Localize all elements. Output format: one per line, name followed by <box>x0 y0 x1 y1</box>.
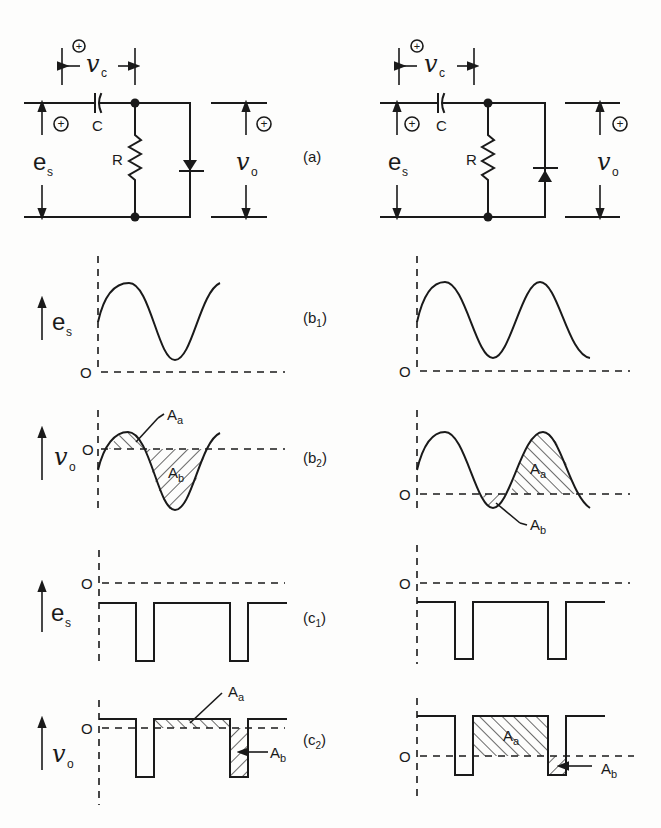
waveform-c2-left: v o O Aa Ab <box>42 683 286 805</box>
ab-leader-tail <box>520 523 527 525</box>
aa-label: Aa <box>167 406 184 426</box>
diode-left-icon <box>183 160 197 171</box>
panel-label-b2: (b2) <box>303 449 327 469</box>
ab-label: Ab <box>601 760 617 780</box>
circuit-right: + v c C R + e s + v o <box>381 40 627 222</box>
waveform-b1-right: O <box>399 256 630 380</box>
zero-label: O <box>80 364 92 381</box>
es-label-sub: s <box>66 325 72 339</box>
resistor-label: R <box>112 151 123 168</box>
resistor <box>129 103 141 217</box>
waveform-c1-left: e s O <box>42 550 286 666</box>
vo-plus-sign: + <box>260 117 267 131</box>
resistor-label: R <box>466 151 477 168</box>
circuit-left: + v c C R + e s + v o <box>25 40 271 222</box>
es-plus-sign: + <box>57 117 64 131</box>
capacitor-label: C <box>436 117 447 134</box>
zero-label: O <box>81 575 93 592</box>
ab-label: Ab <box>530 516 546 536</box>
es-label: e <box>33 148 46 175</box>
panel-label-c1: (c1) <box>303 609 326 629</box>
waveform-b1-left: e s O <box>42 256 285 381</box>
es-label-sub: s <box>47 165 53 179</box>
vo-label: v <box>236 148 250 176</box>
vo-label-sub: o <box>251 165 258 179</box>
vc-label: v <box>424 50 438 78</box>
es-label: e <box>388 148 401 175</box>
panel-label-a: (a) <box>303 148 321 165</box>
resistor <box>482 103 494 217</box>
vc-label: v <box>86 50 100 78</box>
waveform-c1-right: O <box>399 545 630 664</box>
es-label: e <box>52 308 65 335</box>
waveform-b2-right: O Aa Ab <box>399 410 630 536</box>
vo-label: v <box>597 148 611 176</box>
aa-leader-tail <box>158 414 164 418</box>
es-label-sub: s <box>65 616 71 630</box>
aa-label: Aa <box>228 683 245 703</box>
zero-label: O <box>81 720 93 737</box>
waveform-b2-left: v o O Aa Ab <box>42 406 285 510</box>
es-sine <box>98 283 220 360</box>
vo-plus-sign: + <box>616 117 623 131</box>
clamper-figure: + v c C R + e s + v o <box>0 0 661 828</box>
vc-plus-sign: + <box>76 40 82 52</box>
es-pulse-train <box>418 602 604 659</box>
zero-label: O <box>399 486 411 503</box>
panel-label-c2: (c2) <box>303 731 326 751</box>
es-sine <box>417 282 590 358</box>
zero-label: O <box>399 748 411 765</box>
ab-leader-line <box>496 503 520 523</box>
vc-label-sub: c <box>439 66 445 80</box>
figure-canvas: + v c C R + e s + v o <box>0 0 661 828</box>
es-label: e <box>51 599 64 626</box>
es-label-sub: s <box>402 165 408 179</box>
vo-label-sub: o <box>69 460 76 474</box>
waveform-c2-right: O Aa Ab <box>399 698 634 800</box>
area-aa <box>511 432 578 494</box>
zero-label: O <box>82 441 94 458</box>
zero-label: O <box>399 363 411 380</box>
panel-label-b1: (b1) <box>303 309 327 329</box>
vo-label-sub: o <box>612 165 619 179</box>
aa-leader-line <box>136 418 158 442</box>
vo-label-sub: o <box>67 757 74 771</box>
vc-label-sub: c <box>101 66 107 80</box>
zero-label: O <box>399 575 411 592</box>
vc-plus-sign: + <box>414 40 420 52</box>
vo-label: v <box>52 740 66 768</box>
ab-label: Ab <box>270 744 286 764</box>
capacitor-label: C <box>92 117 103 134</box>
vo-label: v <box>54 443 68 471</box>
diode-right-icon <box>538 170 552 182</box>
es-pulse-train <box>100 603 286 661</box>
es-plus-sign: + <box>408 117 415 131</box>
